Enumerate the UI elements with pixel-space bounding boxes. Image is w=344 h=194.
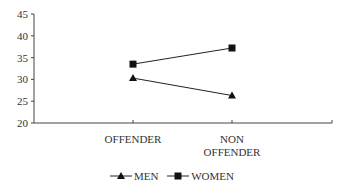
square-marker-icon [167,171,189,181]
axes: 202530354045OFFENDERNONOFFENDER [17,8,332,158]
y-tick-label: 30 [17,73,29,85]
legend-label-men: MEN [134,170,158,182]
triangle-marker-icon [129,74,137,81]
y-tick-label: 40 [17,30,29,42]
x-category-label: OFFENDER [204,146,262,158]
y-tick-label: 20 [17,117,29,129]
legend-item-women: WOMEN [167,170,234,182]
series-layer [129,45,236,99]
square-marker-icon [229,45,236,52]
series-line-men [133,78,232,95]
x-category-label: NON [220,133,244,145]
legend-item-men: MEN [110,170,158,182]
legend: MEN WOMEN [0,170,344,183]
y-tick-label: 25 [17,95,29,107]
x-category-label: OFFENDER [105,133,163,145]
square-marker-icon [130,61,137,68]
series-line-women [133,48,232,64]
triangle-marker-icon [110,171,132,181]
line-chart: 202530354045OFFENDERNONOFFENDER [0,0,344,194]
y-tick-label: 35 [17,52,29,64]
legend-label-women: WOMEN [191,170,234,182]
y-tick-label: 45 [17,8,29,20]
